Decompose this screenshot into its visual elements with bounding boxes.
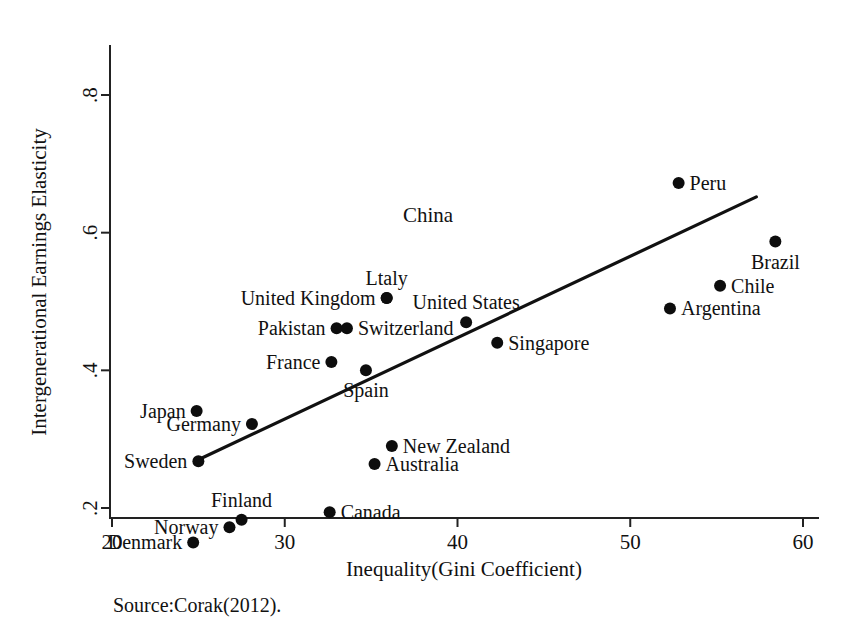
- point-label: Argentina: [681, 297, 761, 320]
- point-label: France: [266, 351, 321, 373]
- scatter-plot: 2030405060 .2.4.6.8 Inequality(Gini Coef…: [0, 0, 861, 636]
- point-marker: [246, 418, 258, 430]
- point-marker: [360, 364, 372, 376]
- data-point: New Zealand: [386, 435, 510, 457]
- point-marker: [714, 280, 726, 292]
- data-point: Chile: [714, 275, 774, 297]
- chart-figure: 2030405060 .2.4.6.8 Inequality(Gini Coef…: [0, 0, 861, 636]
- point-label: Switzerland: [358, 317, 454, 339]
- data-point: Brazil: [751, 236, 800, 273]
- data-point: France: [266, 351, 337, 373]
- data-point: Spain: [343, 364, 389, 402]
- point-label: United States: [413, 291, 520, 313]
- point-label: Ltaly: [366, 267, 408, 290]
- point-label: Singapore: [508, 332, 589, 355]
- point-label: Sweden: [124, 450, 187, 472]
- y-tick-label: .4: [78, 362, 102, 378]
- point-marker: [386, 440, 398, 452]
- point-marker: [460, 316, 472, 328]
- point-label: United Kingdom: [241, 287, 376, 310]
- point-label: Spain: [343, 379, 389, 402]
- data-point: Singapore: [491, 332, 589, 355]
- floating-label-group: China: [403, 203, 454, 227]
- point-label: Germany: [167, 413, 241, 436]
- point-label: New Zealand: [403, 435, 510, 457]
- x-tick-label: 30: [274, 530, 295, 554]
- data-point: Finland: [211, 489, 272, 526]
- y-tick-label: .6: [78, 225, 102, 241]
- point-label: Pakistan: [258, 317, 326, 339]
- y-tick-label: .2: [78, 500, 102, 516]
- data-point: Argentina: [664, 297, 761, 320]
- point-marker: [673, 177, 685, 189]
- data-point: Norway: [154, 516, 235, 539]
- floating-label: China: [403, 203, 454, 227]
- point-label: Finland: [211, 489, 272, 511]
- data-point: Canada: [324, 501, 401, 523]
- data-point: Sweden: [124, 450, 204, 472]
- point-label: Brazil: [751, 251, 800, 273]
- source-note: Source:Corak(2012).: [113, 594, 281, 617]
- point-label: Chile: [731, 275, 774, 297]
- x-tick-label: 40: [447, 530, 468, 554]
- x-axis-title: Inequality(Gini Coefficient): [346, 557, 582, 581]
- point-marker: [369, 458, 381, 470]
- x-tick-label: 60: [793, 530, 814, 554]
- data-point-group: DenmarkNorwayFinlandSwedenJapanGermanyCa…: [108, 172, 800, 553]
- point-marker: [491, 337, 503, 349]
- point-marker: [769, 236, 781, 248]
- point-label: Canada: [341, 501, 401, 523]
- y-axis-ticks: .2.4.6.8: [78, 87, 110, 516]
- point-marker: [223, 521, 235, 533]
- point-marker: [381, 292, 393, 304]
- y-axis-title: Intergenerational Earnings Elasticity: [27, 128, 51, 436]
- point-label: Peru: [690, 172, 727, 194]
- y-tick-label: .8: [78, 87, 102, 103]
- point-marker: [331, 322, 343, 334]
- point-marker: [664, 302, 676, 314]
- data-point: Pakistan: [258, 317, 343, 339]
- point-marker: [324, 506, 336, 518]
- data-point: Switzerland: [341, 317, 454, 339]
- data-point: Peru: [673, 172, 727, 194]
- point-label: Norway: [154, 516, 218, 539]
- x-tick-label: 50: [620, 530, 641, 554]
- point-marker: [236, 514, 248, 526]
- data-point: Germany: [167, 413, 258, 436]
- point-marker: [192, 455, 204, 467]
- point-marker: [325, 356, 337, 368]
- point-marker: [341, 322, 353, 334]
- data-point: United Kingdom: [241, 287, 393, 310]
